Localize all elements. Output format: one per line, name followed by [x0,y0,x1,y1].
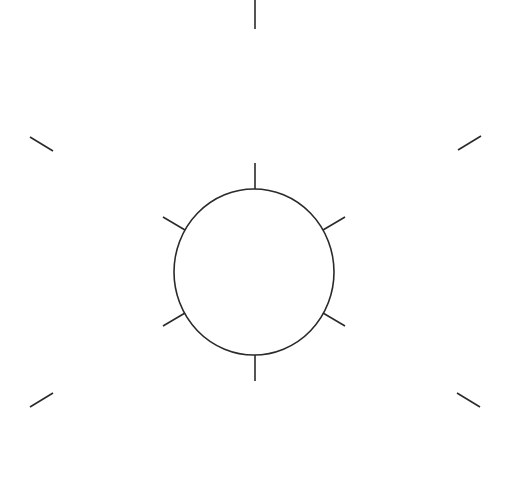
diagram-canvas [0,0,507,492]
central-circle [174,189,334,355]
outer-lower-left-line [30,393,53,407]
outer-upper-left-line [30,137,53,151]
tick-upper-left-line [163,217,185,230]
inner-tick-group [163,163,345,381]
outer-upper-right-line [458,136,481,150]
outer-tick-group [30,0,481,407]
tick-upper-right-line [323,217,345,230]
tick-lower-left-line [163,313,185,326]
outer-lower-right-line [457,393,480,407]
tick-lower-right-line [323,313,345,326]
